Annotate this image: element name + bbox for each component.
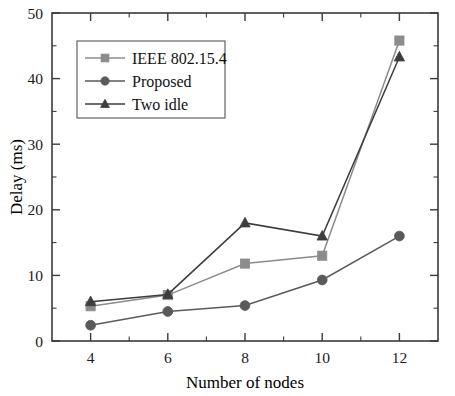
data-point-marker <box>317 275 327 285</box>
legend-label: Two idle <box>132 96 188 113</box>
data-point-marker <box>395 36 404 45</box>
y-tick-label: 50 <box>28 5 44 22</box>
x-tick-label: 6 <box>164 349 172 366</box>
series-proposed <box>86 231 405 330</box>
y-tick-label: 30 <box>28 136 44 153</box>
data-point-marker <box>86 320 96 330</box>
x-axis-tick-labels: 4681012 <box>87 349 407 366</box>
legend-label: Proposed <box>132 73 192 91</box>
data-point-marker <box>240 301 250 311</box>
data-point-marker <box>163 307 173 317</box>
legend-marker <box>101 77 109 85</box>
x-tick-label: 8 <box>241 349 249 366</box>
data-point-marker <box>395 231 405 241</box>
x-axis-title: Number of nodes <box>186 373 304 392</box>
legend: IEEE 802.15.4ProposedTwo idle <box>77 41 227 118</box>
x-tick-label: 10 <box>314 349 330 366</box>
data-point-marker <box>240 259 249 268</box>
legend-marker <box>101 54 109 62</box>
y-tick-label: 10 <box>28 267 44 284</box>
y-axis-title: Delay (ms) <box>7 139 26 215</box>
data-point-marker <box>240 217 250 227</box>
y-tick-label: 0 <box>35 333 43 350</box>
x-tick-label: 4 <box>87 349 95 366</box>
legend-label: IEEE 802.15.4 <box>132 50 227 67</box>
y-tick-label: 40 <box>28 70 44 87</box>
data-point-marker <box>318 251 327 260</box>
x-tick-label: 12 <box>392 349 408 366</box>
delay-vs-nodes-line-chart: 4681012 01020304050 Number of nodes Dela… <box>0 0 455 396</box>
chart-container: 4681012 01020304050 Number of nodes Dela… <box>0 0 455 396</box>
y-tick-label: 20 <box>28 201 44 218</box>
y-axis-tick-labels: 01020304050 <box>28 5 44 350</box>
series-line <box>91 236 400 325</box>
